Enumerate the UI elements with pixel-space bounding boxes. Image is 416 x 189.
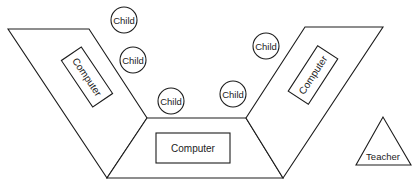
svg-text:Child: Child (122, 55, 144, 66)
bottom-computer-label: Computer (171, 143, 216, 154)
svg-text:Child: Child (160, 96, 182, 107)
teacher-label: Teacher (366, 151, 400, 162)
classroom-diagram: Computer Computer Computer Child Child C… (0, 0, 416, 189)
child-3: Child (158, 88, 184, 114)
child-5: Child (253, 33, 279, 59)
svg-text:Child: Child (255, 41, 277, 52)
child-4: Child (220, 81, 246, 107)
child-1: Child (111, 7, 137, 33)
svg-text:Child: Child (113, 15, 135, 26)
svg-text:Child: Child (222, 89, 244, 100)
teacher: Teacher (356, 117, 411, 165)
child-2: Child (120, 47, 146, 73)
